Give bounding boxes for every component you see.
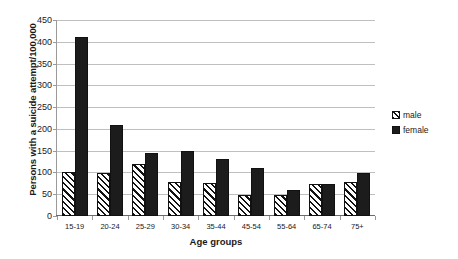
bar-group (304, 20, 339, 216)
x-tick-label-30-34: 30-34 (171, 222, 190, 231)
filled-square-icon (392, 126, 400, 134)
bar-female-65-74 (322, 184, 335, 216)
legend-item-male[interactable]: male (392, 110, 429, 120)
bar-male-30-34 (168, 182, 181, 216)
bar-female-35-44 (216, 159, 229, 216)
bar-female-55-64 (287, 190, 300, 216)
y-tick-label: 250 (37, 102, 52, 112)
y-tick-label: 100 (37, 167, 52, 177)
x-tick-label-55-64: 55-64 (277, 222, 296, 231)
y-tick-label: 300 (37, 80, 52, 90)
bar-group (198, 20, 233, 216)
legend-item-female[interactable]: female (392, 125, 429, 135)
bar-male-35-44 (203, 183, 216, 216)
bar-male-75+ (344, 182, 357, 216)
x-tick-mark (128, 216, 129, 220)
y-tick-label: 350 (37, 59, 52, 69)
y-tick-label: 450 (37, 15, 52, 25)
chart-legend: malefemale (392, 110, 429, 140)
bar-male-25-29 (132, 164, 145, 216)
x-tick-mark (375, 216, 376, 220)
x-tick-mark (304, 216, 305, 220)
bar-chart: Persons with a suicide attempt/100,000 0… (0, 0, 458, 259)
hatched-square-icon (392, 111, 400, 119)
x-tick-label-75+: 75+ (351, 222, 364, 231)
bar-female-15-19 (75, 37, 88, 216)
x-tick-mark (92, 216, 93, 220)
x-tick-label-35-44: 35-44 (206, 222, 225, 231)
bar-male-55-64 (274, 195, 287, 216)
bar-group (269, 20, 304, 216)
bar-group (92, 20, 127, 216)
bar-male-45-54 (238, 195, 251, 216)
bar-female-45-54 (251, 168, 264, 216)
x-tick-label-45-54: 45-54 (242, 222, 261, 231)
bar-female-20-24 (110, 125, 123, 216)
y-tick-label: 400 (37, 37, 52, 47)
bar-group (128, 20, 163, 216)
y-tick-label: 50 (42, 189, 52, 199)
bar-female-25-29 (145, 153, 158, 216)
bar-male-15-19 (62, 172, 75, 216)
legend-label: male (403, 110, 421, 120)
bar-group (340, 20, 375, 216)
y-tick-label: 200 (37, 124, 52, 134)
x-axis-title: Age groups (57, 236, 375, 247)
bar-group (163, 20, 198, 216)
bar-group (57, 20, 92, 216)
x-tick-label-15-19: 15-19 (65, 222, 84, 231)
x-tick-mark (163, 216, 164, 220)
x-tick-mark (340, 216, 341, 220)
x-tick-mark (198, 216, 199, 220)
legend-label: female (403, 125, 429, 135)
bar-female-30-34 (181, 151, 194, 216)
bar-female-75+ (357, 173, 370, 216)
y-tick-label: 150 (37, 146, 52, 156)
x-tick-mark (57, 216, 58, 220)
x-tick-label-65-74: 65-74 (312, 222, 331, 231)
x-tick-mark (269, 216, 270, 220)
bar-group (234, 20, 269, 216)
x-tick-mark (234, 216, 235, 220)
bar-male-65-74 (309, 184, 322, 216)
x-tick-label-25-29: 25-29 (136, 222, 155, 231)
x-tick-label-20-24: 20-24 (100, 222, 119, 231)
bar-male-20-24 (97, 173, 110, 216)
y-tick-label: 0 (47, 211, 52, 221)
plot-area: 050100150200250300350400450 15-1920-2425… (57, 20, 375, 216)
y-axis-title: Persons with a suicide attempt/100,000 (27, 10, 38, 210)
